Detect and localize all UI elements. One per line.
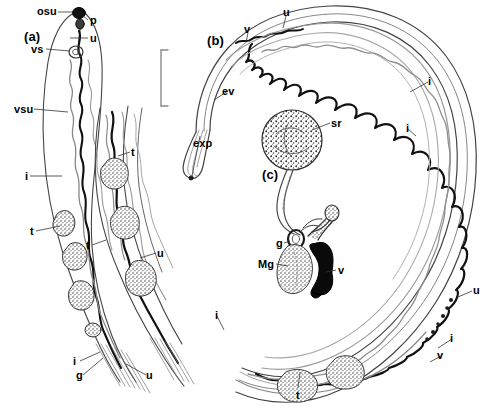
label-i-bot: i — [215, 310, 218, 321]
label-v-c1: v — [338, 265, 344, 276]
panel-b-and-main-loop — [183, 6, 476, 402]
label-i-r1: i — [428, 76, 431, 87]
label-g-c1: g — [276, 238, 283, 249]
label-osu: osu — [37, 6, 57, 17]
label-u-b1: u — [283, 7, 290, 18]
label-Mg: Mg — [258, 259, 274, 270]
label-u-mid1: u — [157, 248, 164, 259]
label-u-r1: u — [473, 285, 480, 296]
label-p: p — [90, 15, 97, 26]
label-t-a2: t — [86, 240, 90, 251]
line-drawing-artwork — [0, 0, 490, 410]
label-i-a1: i — [25, 171, 28, 182]
label-v-r1: v — [437, 350, 443, 361]
label-sr: sr — [331, 118, 342, 129]
figure-plate: (a) (b) (c) — [0, 0, 490, 410]
label-g-a1: g — [76, 370, 83, 381]
label-i-r3: i — [450, 333, 453, 344]
label-exp: exp — [193, 138, 212, 149]
panel-a-anterior-body — [43, 8, 150, 394]
panel-label-a: (a) — [24, 30, 40, 43]
label-t-a1: t — [30, 226, 34, 237]
label-vsu: vsu — [14, 104, 33, 115]
scale-bar-graphic — [161, 50, 168, 106]
label-v-b1: v — [244, 24, 250, 35]
panel-label-c: (c) — [262, 168, 278, 181]
label-u-a1: u — [90, 33, 97, 44]
label-t-bot: t — [296, 390, 300, 401]
label-t-mid1: t — [131, 147, 135, 158]
label-i-a2: i — [73, 356, 76, 367]
label-i-r2: i — [406, 123, 409, 134]
label-vs: vs — [31, 44, 43, 55]
label-u-a2: u — [146, 370, 153, 381]
label-ev: ev — [222, 86, 234, 97]
panel-label-b: (b) — [207, 34, 224, 47]
